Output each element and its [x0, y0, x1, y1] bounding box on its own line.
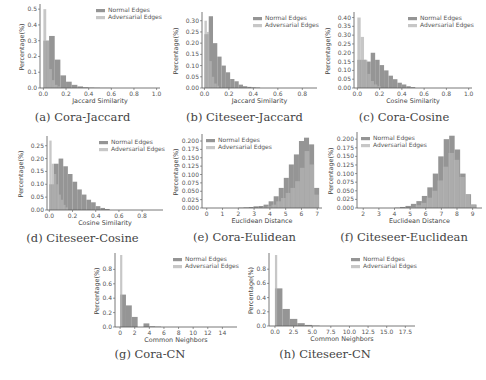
- histogram-bar: [55, 60, 61, 88]
- histogram-bar: [290, 319, 297, 326]
- y-tick-label: 0.4: [256, 294, 266, 301]
- histogram-bar: [305, 151, 310, 208]
- x-tick-label: 5: [284, 210, 288, 217]
- y-tick-label: 0.6: [256, 279, 266, 286]
- x-tick-label: 10: [189, 329, 197, 336]
- legend-swatch-adversarial: [361, 144, 370, 147]
- histogram-bar: [214, 84, 216, 88]
- y-tick-label: 0.00: [31, 206, 45, 213]
- y-tick-label: 0.4: [27, 21, 37, 28]
- histogram-bar: [209, 61, 211, 88]
- histogram-bar: [384, 70, 388, 88]
- legend-label: Adversarial Edges: [218, 143, 272, 151]
- histogram-bar: [59, 195, 61, 210]
- x-tick-label: 15.0: [380, 328, 394, 335]
- x-tick-label: 3: [252, 210, 256, 217]
- y-tick-label: 0.8: [102, 265, 112, 272]
- x-tick-label: 0.0: [200, 90, 210, 97]
- histogram-bar: [63, 166, 68, 210]
- x-tick-label: 0.2: [68, 212, 78, 219]
- histogram-bar: [82, 195, 87, 210]
- histogram-chart: 0.00.20.40.60.81.00.00.10.20.30.40.5Jacc…: [0, 0, 165, 110]
- x-tick-label: 0.8: [298, 90, 308, 97]
- y-tick-label: 0.05: [31, 193, 45, 200]
- x-tick-label: 12: [204, 329, 212, 336]
- x-tick-label: 8: [177, 329, 181, 336]
- y-tick-label: 0.10: [186, 62, 200, 69]
- histogram-bar: [204, 21, 206, 88]
- normal-edges-bars: [275, 288, 320, 326]
- chart-legend: Normal EdgesAdversarial Edges: [99, 138, 165, 153]
- chart-legend: Normal EdgesAdversarial Edges: [206, 136, 272, 151]
- x-tick-label: 7: [315, 210, 319, 217]
- histogram-bar: [281, 198, 286, 208]
- x-tick-label: 17.5: [399, 328, 413, 335]
- y-tick-label: 0.25: [31, 142, 45, 149]
- y-axis-label: Percentage(%): [327, 147, 335, 194]
- histogram-bar: [459, 177, 464, 208]
- y-tick-label: 0.40: [338, 14, 352, 21]
- histogram-bar: [226, 72, 230, 88]
- y-axis-label: Percentage(%): [93, 267, 101, 314]
- x-tick-label: 0.6: [114, 212, 124, 219]
- y-tick-label: 0.150: [182, 154, 199, 161]
- x-tick-label: 0.6: [419, 90, 429, 97]
- histogram-bar: [96, 206, 101, 210]
- histogram-bar: [357, 18, 360, 88]
- x-tick-label: 1.0: [464, 90, 474, 97]
- x-tick-label: 0.6: [273, 90, 283, 97]
- histogram-chart: 234567890.0000.0250.0500.0750.1000.1250.…: [322, 130, 486, 240]
- figure-caption: (e) Cora-Eulidean: [162, 230, 327, 244]
- histogram-bar: [61, 200, 63, 210]
- legend-swatch-adversarial: [99, 148, 108, 151]
- histogram-chart: 024681012140.00.20.40.60.8Common Neighbo…: [55, 255, 245, 355]
- x-tick-label: 4: [147, 329, 151, 336]
- histogram-bar: [230, 79, 234, 88]
- x-tick-label: 6: [424, 210, 428, 217]
- y-tick-label: 0.3: [27, 37, 37, 44]
- y-tick-label: 0.5: [27, 5, 37, 12]
- x-axis-label: Jaccard Similarity: [231, 97, 288, 105]
- y-tick-label: 0.075: [182, 179, 199, 186]
- y-tick-label: 0.00: [338, 84, 352, 91]
- x-axis-label: Euclidean Distance: [231, 217, 292, 225]
- x-tick-label: 6: [162, 329, 166, 336]
- x-tick-label: 0.4: [91, 212, 101, 219]
- y-tick-label: 0.15: [31, 167, 45, 174]
- x-tick-label: 0.4: [397, 90, 407, 97]
- legend-swatch-normal: [361, 137, 370, 140]
- figure-caption: (d) Citeseer-Cosine: [0, 231, 165, 245]
- x-tick-label: 0.0: [45, 212, 55, 219]
- chart-panel-b: 0.00.20.40.60.80.000.050.100.150.200.250…: [162, 0, 327, 130]
- x-tick-label: 4: [268, 210, 272, 217]
- y-tick-label: 0.20: [31, 155, 45, 162]
- x-tick-label: 0.2: [224, 90, 234, 97]
- x-tick-label: 1.0: [152, 90, 162, 97]
- histogram-bar: [271, 205, 276, 208]
- histogram-bar: [300, 168, 305, 208]
- legend-label: Adversarial Edges: [111, 145, 165, 153]
- chart-panel-a: 0.00.20.40.60.81.00.00.10.20.30.40.5Jacc…: [0, 0, 165, 130]
- normal-edges-bars: [120, 295, 161, 327]
- histogram-bar: [421, 203, 426, 208]
- x-tick-label: 0.8: [137, 212, 147, 219]
- x-tick-label: 0.8: [442, 90, 452, 97]
- histogram-bar: [465, 194, 470, 208]
- x-tick-label: 2: [133, 329, 137, 336]
- histogram-bar: [43, 9, 46, 88]
- histogram-bar: [143, 323, 149, 327]
- figure-caption: (h) Citeseer-CN: [225, 347, 425, 361]
- histogram-bar: [443, 167, 448, 208]
- histogram-bar: [54, 174, 56, 210]
- legend-swatch-adversarial: [173, 265, 182, 268]
- histogram-bar: [77, 189, 82, 210]
- y-tick-label: 0.6: [102, 280, 112, 287]
- figure-caption: (a) Cora-Jaccard: [0, 110, 165, 124]
- legend-swatch-adversarial: [351, 265, 360, 268]
- histogram-bar: [432, 191, 437, 208]
- figure-caption: (b) Citeseer-Jaccard: [162, 110, 327, 124]
- histogram-bar: [126, 305, 132, 327]
- y-tick-label: 0.175: [182, 145, 199, 152]
- histogram-bar: [309, 164, 314, 208]
- y-tick-label: 0.075: [337, 178, 354, 185]
